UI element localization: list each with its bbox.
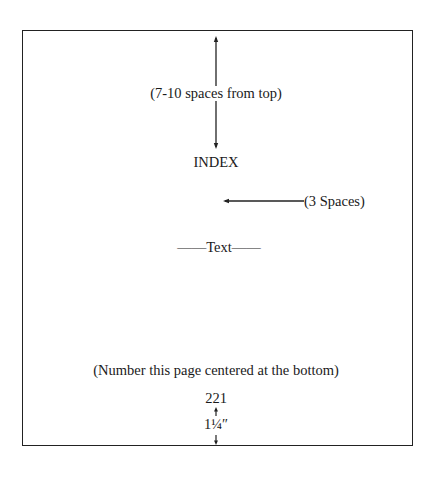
body-text-placeholder: ——Text—— (177, 240, 261, 255)
arrow-down-icon (212, 101, 220, 149)
arrow-up-icon (212, 36, 220, 88)
small-arrow-up-icon (213, 407, 219, 416)
bottom-margin-label: 1¼″ (204, 417, 228, 432)
side-spacing-label: (3 Spaces) (304, 194, 365, 209)
page-number: 221 (205, 391, 227, 406)
small-arrow-down-icon (213, 435, 219, 445)
top-spacing-label: (7-10 spaces from top) (150, 86, 282, 101)
page-number-note: (Number this page centered at the bottom… (93, 363, 339, 378)
index-heading: INDEX (193, 155, 238, 170)
arrow-left-icon (223, 197, 305, 205)
